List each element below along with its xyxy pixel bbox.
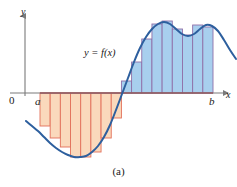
riemann-rectangle [152, 24, 162, 93]
function-equation-label: y = f(x) [84, 48, 116, 59]
riemann-rectangle [203, 27, 213, 93]
riemann-sum-plot [0, 0, 237, 187]
lower-limit-label: a [35, 96, 41, 107]
upper-limit-label: b [209, 96, 215, 107]
origin-label: 0 [9, 95, 15, 106]
figure-caption: (a) [0, 165, 237, 177]
y-axis-label: y [21, 7, 25, 17]
riemann-rectangle [172, 29, 182, 93]
riemann-rectangle [193, 25, 203, 93]
riemann-rectangle [162, 21, 172, 93]
riemann-rectangle [60, 93, 70, 147]
x-axis-label: x [226, 90, 230, 100]
riemann-rectangle [50, 93, 60, 138]
riemann-rectangle [142, 39, 152, 93]
riemann-rectangle [111, 93, 121, 118]
riemann-rectangle [182, 35, 192, 93]
riemann-rectangle [40, 93, 50, 126]
riemann-sum-figure: y x 0 a b y = f(x) (a) [0, 0, 237, 187]
riemann-rectangle [81, 93, 91, 157]
riemann-rectangle [71, 93, 81, 157]
